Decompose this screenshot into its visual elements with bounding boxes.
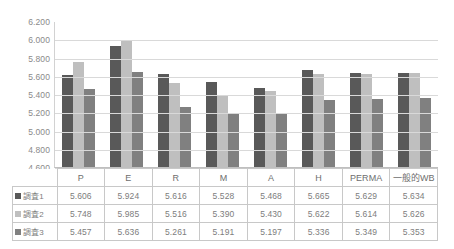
bar <box>276 113 287 167</box>
y-axis-tick-label: 5.400 <box>28 90 50 100</box>
data-cell: 5.390 <box>200 205 248 223</box>
bar <box>302 70 313 167</box>
y-axis-tick-label: 6.200 <box>28 17 50 27</box>
gridline <box>55 40 438 41</box>
data-cell: 5.606 <box>57 187 105 205</box>
legend-entry: 調査1 <box>13 187 58 205</box>
data-cell: 5.197 <box>247 223 295 241</box>
bar <box>254 88 265 167</box>
data-cell: 5.614 <box>342 205 390 223</box>
data-cell: 5.261 <box>152 223 200 241</box>
bar <box>350 73 361 167</box>
data-cell: 5.629 <box>342 187 390 205</box>
bar <box>398 73 409 167</box>
data-cell: 5.528 <box>200 187 248 205</box>
legend-swatch-icon <box>15 211 21 217</box>
y-axis-tick-label: 5.600 <box>28 72 50 82</box>
bar <box>409 73 420 167</box>
data-cell: 5.748 <box>57 205 105 223</box>
table-row: 調査35.4575.6365.2615.1915.1975.3365.3495.… <box>13 223 438 241</box>
y-axis-tick-label: 5.000 <box>28 127 50 137</box>
gridline <box>55 150 438 151</box>
table-header-row: PERMAHPERMA一般的WB <box>13 169 438 187</box>
data-cell: 5.468 <box>247 187 295 205</box>
category-header-cell: 一般的WB <box>390 169 438 187</box>
category-header-cell: E <box>105 169 153 187</box>
data-cell: 5.634 <box>390 187 438 205</box>
bar <box>158 74 169 167</box>
legend-label: 調査2 <box>23 210 44 219</box>
y-axis-tick-label: 4.800 <box>28 145 50 155</box>
legend-label: 調査3 <box>23 228 44 237</box>
category-header-cell: PERMA <box>342 169 390 187</box>
bar-chart-widget: 6.2006.0005.8005.6005.4005.2005.0004.800… <box>0 0 454 249</box>
data-cell: 5.457 <box>57 223 105 241</box>
bar <box>62 75 73 167</box>
data-cell: 5.985 <box>105 205 153 223</box>
table-row: 調査15.6065.9245.6165.5285.4685.6655.6295.… <box>13 187 438 205</box>
category-header-cell: A <box>247 169 295 187</box>
bar <box>121 41 132 167</box>
gridline <box>55 77 438 78</box>
data-cell: 5.622 <box>295 205 343 223</box>
data-cell: 5.626 <box>390 205 438 223</box>
category-header-cell: R <box>152 169 200 187</box>
data-cell: 5.616 <box>152 187 200 205</box>
data-cell: 5.665 <box>295 187 343 205</box>
y-axis-tick-label: 6.000 <box>28 35 50 45</box>
plot-area <box>54 22 438 168</box>
bar <box>180 107 191 167</box>
data-cell: 5.349 <box>342 223 390 241</box>
gridline <box>55 113 438 114</box>
data-cell: 5.191 <box>200 223 248 241</box>
data-cell: 5.353 <box>390 223 438 241</box>
bar <box>313 74 324 167</box>
bar <box>361 74 372 167</box>
legend-label: 調査1 <box>23 192 44 201</box>
bar <box>132 72 143 167</box>
bar <box>73 62 84 167</box>
category-header-cell: P <box>57 169 105 187</box>
data-cell: 5.430 <box>247 205 295 223</box>
bar <box>84 89 95 167</box>
bar <box>228 113 239 167</box>
y-axis: 6.2006.0005.8005.6005.4005.2005.0004.800… <box>12 14 52 160</box>
bar <box>265 91 276 167</box>
legend-entry: 調査2 <box>13 205 58 223</box>
chart-data-table: PERMAHPERMA一般的WB調査15.6065.9245.6165.5285… <box>12 168 438 241</box>
legend-swatch-icon <box>15 193 21 199</box>
table-corner-cell <box>13 169 58 187</box>
data-cell: 5.636 <box>105 223 153 241</box>
category-header-cell: H <box>295 169 343 187</box>
legend-entry: 調査3 <box>13 223 58 241</box>
bar <box>372 99 383 167</box>
data-cell: 5.516 <box>152 205 200 223</box>
gridline <box>55 132 438 133</box>
table-row: 調査25.7485.9855.5165.3905.4305.6225.6145.… <box>13 205 438 223</box>
y-axis-tick-label: 5.200 <box>28 108 50 118</box>
legend-swatch-icon <box>15 229 21 235</box>
data-cell: 5.336 <box>295 223 343 241</box>
category-header-cell: M <box>200 169 248 187</box>
bar <box>324 100 335 167</box>
y-axis-tick-label: 5.800 <box>28 54 50 64</box>
gridline <box>55 59 438 60</box>
chart-plot-wrapper: 6.2006.0005.8005.6005.4005.2005.0004.800… <box>12 14 438 169</box>
gridline <box>55 95 438 96</box>
bar <box>420 98 431 167</box>
data-cell: 5.924 <box>105 187 153 205</box>
